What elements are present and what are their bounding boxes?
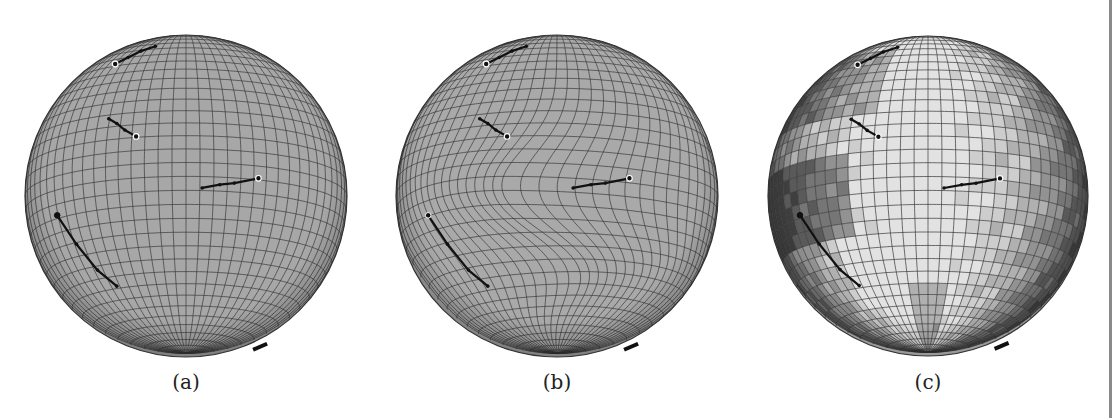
sphere-panel-c bbox=[768, 36, 1088, 356]
sphere-panel-b bbox=[396, 35, 718, 357]
bottom-mark bbox=[624, 344, 638, 350]
caption-c: (c) bbox=[898, 370, 958, 394]
bottom-mark bbox=[253, 344, 267, 350]
sphere-panel-a bbox=[25, 35, 347, 357]
bottom-mark bbox=[995, 343, 1009, 349]
figure-canvas bbox=[0, 0, 1116, 418]
caption-b: (b) bbox=[527, 370, 587, 394]
right-border-line bbox=[1109, 0, 1112, 418]
caption-a: (a) bbox=[156, 370, 216, 394]
